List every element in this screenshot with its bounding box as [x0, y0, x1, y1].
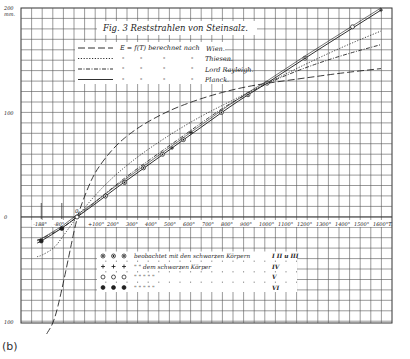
obs-legend-roman: VI: [272, 285, 279, 291]
obs-legend-roman: IV: [271, 264, 280, 270]
ditto-mark: ": [163, 66, 165, 72]
dotted-circle-marker-center: [105, 195, 107, 197]
x-tick-label: 1000°: [259, 221, 275, 227]
x-tick-label: 1500°: [354, 221, 370, 227]
dotted-circle-marker-center: [183, 139, 185, 141]
obs-legend-text: " " " " ": [134, 285, 155, 291]
dotted-circle-marker-center: [124, 182, 126, 184]
dotted-circle-marker-center: [102, 255, 104, 257]
x-tick-label: -188°: [33, 221, 47, 227]
dotted-circle-marker-center: [162, 153, 164, 155]
filled-circle-marker: [122, 286, 126, 290]
ditto-mark: ": [140, 56, 142, 62]
y-unit-label: mm.: [4, 11, 15, 17]
open-circle-marker: [75, 215, 79, 219]
dotted-circle-marker-center: [266, 82, 268, 84]
ditto-mark: ": [140, 66, 142, 72]
filled-circle-marker: [39, 239, 43, 243]
x-tick-label: 1300°: [316, 221, 332, 227]
dotted-circle-marker-center: [143, 167, 145, 169]
ditto-mark: ": [140, 77, 142, 83]
x-tick-label: 1600°T.: [373, 221, 393, 227]
x-tick-label: 1100°: [278, 221, 294, 227]
x-tick-label: 600°: [183, 221, 196, 227]
open-circle-marker: [122, 275, 126, 279]
ditto-mark: ": [191, 77, 193, 83]
x-tick-label: 900°: [240, 221, 253, 227]
obs-legend-roman: I II u III: [271, 253, 299, 259]
ditto-mark: ": [122, 56, 124, 62]
obs-legend-text: " " " " ": [134, 274, 155, 280]
x-tick-label: 400°: [144, 221, 158, 227]
x-tick-label: 500°: [164, 221, 177, 227]
x-tick-label: +100°: [88, 221, 105, 227]
y-tick-label: 0: [4, 214, 8, 220]
obs-legend-text: beobachtet mit den schwarzen Körpern: [134, 253, 251, 260]
panel-label: (b): [2, 340, 18, 353]
obs-legend-row-bg: [97, 283, 297, 292]
chart-title: Fig. 3 Reststrahlen von Steinsalz.: [102, 23, 248, 33]
ditto-mark: ": [191, 66, 193, 72]
x-tick-label: 1400°: [335, 221, 351, 227]
dotted-circle-marker-center: [123, 255, 125, 257]
obs-legend-text: " " dem schwarzen Körper: [134, 264, 212, 271]
x-tick-label: 300°: [126, 221, 139, 227]
dotted-circle-marker-center: [304, 57, 306, 59]
dotted-circle-marker-center: [247, 94, 249, 96]
open-circle-marker: [351, 25, 355, 29]
open-circle-marker: [112, 275, 116, 279]
chart-figure: 2001000100mm.-188°-80°0+100°200°300°400°…: [0, 0, 410, 359]
dotted-circle-marker-center: [113, 255, 115, 257]
filled-circle-marker: [112, 286, 116, 290]
y-tick-label: 100: [4, 110, 14, 116]
dotted-circle-marker-center: [221, 112, 223, 114]
x-tick-label: 200°: [106, 221, 120, 227]
x-tick-label: 800°: [221, 221, 234, 227]
obs-legend-roman: V: [272, 274, 277, 280]
ditto-mark: ": [163, 77, 165, 83]
ditto-mark: ": [163, 56, 165, 62]
x-tick-label: 700°: [202, 221, 215, 227]
ditto-mark: ": [191, 56, 193, 62]
curve-legend: E = f(T) berechnet nachWien.""""Thiesen.…: [75, 42, 258, 84]
ditto-mark: ": [122, 66, 124, 72]
x-tick-label: 1200°: [297, 221, 313, 227]
filled-circle-marker: [101, 286, 105, 290]
y-tick-label: 100: [4, 319, 14, 325]
open-circle-marker: [101, 275, 105, 279]
curve-legend-header: E = f(T) berechnet nach: [119, 44, 200, 52]
ditto-mark: ": [122, 77, 124, 83]
filled-circle-marker: [60, 226, 64, 230]
obs-legend-row-bg: [97, 273, 297, 282]
